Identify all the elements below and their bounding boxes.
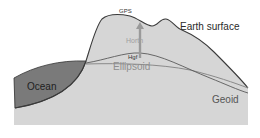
gps-label: GPS (119, 8, 132, 14)
geodesy-diagram: GPS Earth surface Ocean Ellipsoid Geoid … (0, 0, 260, 138)
ellipsoid-label: Ellipsoid (113, 62, 150, 72)
ocean-label: Ocean (27, 82, 56, 92)
geoid-label: Geoid (212, 95, 239, 105)
geoid-height-label: Hgf (128, 54, 137, 60)
orthometric-height-label: Horth (126, 37, 143, 44)
earth-surface-label: Earth surface (180, 22, 239, 32)
